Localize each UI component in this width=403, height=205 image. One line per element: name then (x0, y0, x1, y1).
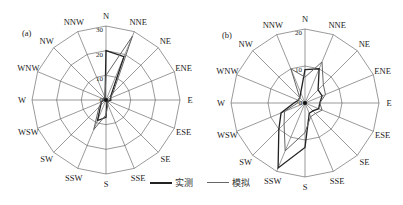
direction-label: E (187, 95, 192, 105)
direction-label: ESE (375, 130, 390, 140)
spoke (305, 51, 357, 103)
center-dot (303, 101, 307, 105)
measured-series (98, 51, 124, 121)
direction-label: SSE (131, 173, 146, 183)
direction-label: ESE (176, 127, 191, 137)
direction-label: WSW (18, 127, 39, 137)
direction-label: SSW (264, 176, 281, 186)
direction-label: SE (160, 154, 170, 164)
radial-tick-label: 10 (295, 66, 303, 74)
direction-label: WNW (17, 63, 39, 73)
direction-label: WNW (216, 66, 238, 76)
direction-label: SW (40, 154, 53, 164)
direction-label: NE (359, 39, 370, 49)
wind-rose-panel-b: NNNENEENEEESESESSESSSWSWWSWWWNWNWNNW0102… (216, 14, 391, 192)
direction-label: ENE (175, 63, 192, 73)
direction-label: E (386, 98, 391, 108)
direction-label: N (103, 11, 109, 21)
panel-label: (a) (22, 28, 32, 38)
legend: 实测 模拟 (150, 176, 250, 189)
radial-tick-label: 0 (299, 99, 303, 107)
legend-simulated-line-icon (207, 182, 229, 183)
direction-label: SE (359, 157, 369, 167)
radial-tick-label: 20 (295, 29, 303, 37)
wind-rose-charts: NNNENEENEEESESESSESSSWSWWSWWWNWNWNNW0102… (0, 0, 403, 205)
radial-tick-label: 20 (96, 51, 104, 59)
direction-label: WSW (217, 130, 238, 140)
direction-label: ENE (374, 66, 391, 76)
direction-label: NE (160, 36, 171, 46)
direction-label: W (18, 95, 26, 105)
direction-label: NNE (129, 17, 146, 27)
legend-simulated: 模拟 (207, 176, 250, 189)
spoke (54, 100, 106, 152)
figure: NNNENEENEEESESESSESSSWSWWSWWWNWNWNNW0102… (0, 0, 403, 205)
direction-label: NW (239, 39, 253, 49)
spoke (253, 51, 305, 103)
direction-label: S (104, 179, 109, 189)
legend-simulated-label: 模拟 (232, 176, 250, 189)
direction-label: N (302, 14, 308, 24)
panel-label: (b) (222, 30, 232, 40)
direction-label: SW (239, 157, 252, 167)
spoke (106, 100, 158, 152)
direction-label: SSE (330, 176, 345, 186)
direction-label: SSW (65, 173, 82, 183)
direction-label: W (217, 98, 225, 108)
spoke (106, 48, 158, 100)
direction-label: NNE (328, 20, 345, 30)
radial-tick-label: 10 (96, 75, 104, 83)
center-dot (104, 98, 108, 102)
wind-rose-panel-a: NNNENEENEEESESESSESSSWSWWSWWWNWNWNNW0102… (17, 11, 192, 189)
direction-label: NNW (64, 17, 84, 27)
direction-label: NNW (263, 20, 283, 30)
legend-measured-label: 实测 (175, 176, 193, 189)
direction-label: S (303, 182, 308, 192)
radial-tick-label: 30 (96, 26, 104, 34)
legend-measured-line-icon (150, 182, 172, 184)
legend-measured: 实测 (150, 176, 193, 189)
direction-label: NW (40, 36, 54, 46)
